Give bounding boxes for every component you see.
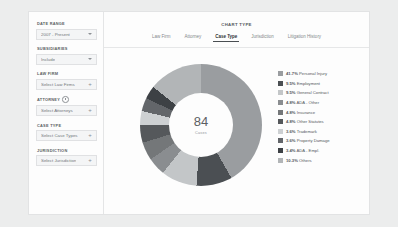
tab-law-firm[interactable]: Law Firm [152,34,171,43]
filter-multiselect[interactable]: Select Law Firms+ [36,79,97,90]
legend-label: 4.8% Other Statutes [286,119,324,124]
legend-label: 4.8% Insurance [286,110,315,115]
legend-item[interactable]: 4.8% Other Statutes [278,117,388,127]
dashboard-card: DATE RANGE2007 - PresentSUBSIDIARIESIncl… [28,11,370,215]
legend-percent: 4.8% [286,100,296,105]
legend-label: 9.5% Employment [286,81,320,86]
legend-name: Employment [297,81,320,86]
chevron-down-icon[interactable] [88,58,92,60]
legend-item[interactable]: 9.5% Employment [278,79,388,89]
legend-name: Personal Injury [299,71,327,76]
legend-item[interactable]: 3.4% ADA - Empl. [278,146,388,156]
filter-label: LAW FIRM [37,71,97,76]
donut-center: 84 Cases [169,93,233,157]
legend-percent: 9.5% [286,81,296,86]
legend-swatch [278,81,283,86]
filter-label: ATTORNEY [37,96,97,103]
legend-label: 9.5% General Contract [286,90,329,95]
legend-swatch [278,138,283,143]
chevron-down-icon[interactable] [88,33,92,35]
legend-percent: 10.3% [286,158,298,163]
filter-label: DATE RANGE [37,21,97,26]
chart-legend: 41.7% Personal Injury9.5% Employment9.5%… [278,69,388,165]
filter-multiselect[interactable]: Select Case Types+ [36,130,97,141]
legend-name: General Contract [297,90,329,95]
tab-jurisdiction[interactable]: Jurisdiction [251,34,274,43]
plus-icon[interactable]: + [88,108,93,113]
legend-swatch [278,148,283,153]
info-icon[interactable] [62,96,69,103]
filter-label-text: ATTORNEY [37,97,60,102]
filter-select[interactable]: 2007 - Present [36,29,97,40]
filter-multiselect[interactable]: Select Jurisdiction+ [36,155,97,166]
filter-group-subsidiaries: SUBSIDIARIESInclude [36,46,97,65]
filter-select[interactable]: Include [36,54,97,65]
legend-name: ADA - Empl. [296,148,319,153]
legend-swatch [278,110,283,115]
legend-label: 3.4% ADA - Empl. [286,148,319,153]
filter-value: Include [41,57,55,62]
legend-percent: 41.7% [286,71,298,76]
filter-group-jurisdiction: JURISDICTIONSelect Jurisdiction+ [36,148,97,167]
legend-name: Insurance [297,110,315,115]
legend-label: 3.6% Trademark [286,129,317,134]
legend-name: Property Damage [297,138,330,143]
filter-value: Select Attorneys [41,108,73,113]
filter-group-law-firm: LAW FIRMSelect Law Firms+ [36,71,97,90]
filter-label-text: LAW FIRM [37,71,58,76]
filter-label-text: DATE RANGE [37,21,65,26]
tab-attorney[interactable]: Attorney [184,34,201,43]
plus-icon[interactable]: + [88,158,93,163]
legend-percent: 3.6% [286,138,296,143]
filter-value: 2007 - Present [41,32,70,37]
legend-swatch [278,100,283,105]
filter-label: CASE TYPE [37,123,97,128]
filter-label: SUBSIDIARIES [37,46,97,51]
legend-swatch [278,119,283,124]
legend-item[interactable]: 9.5% General Contract [278,88,388,98]
legend-label: 3.6% Property Damage [286,138,330,143]
legend-name: Others [299,158,312,163]
tab-litigation-history[interactable]: Litigation History [288,34,321,43]
legend-label: 10.3% Others [286,158,312,163]
donut-center-value: 84 [194,115,208,128]
legend-label: 4.8% ADA - Other [286,100,319,105]
tab-case-type[interactable]: Case Type [215,34,237,43]
legend-swatch [278,129,283,134]
filter-group-case-type: CASE TYPESelect Case Types+ [36,123,97,142]
legend-item[interactable]: 41.7% Personal Injury [278,69,388,79]
filter-label: JURISDICTION [37,148,97,153]
filter-label-text: SUBSIDIARIES [37,46,68,51]
filters-sidebar: DATE RANGE2007 - PresentSUBSIDIARIESIncl… [29,12,104,214]
filter-label-text: JURISDICTION [37,148,67,153]
legend-swatch [278,71,283,76]
plus-icon[interactable]: + [88,82,93,87]
filter-value: Select Case Types [41,133,78,138]
chart-type-tabs: Law FirmAttorneyCase TypeJurisdictionLit… [104,34,369,48]
legend-item[interactable]: 3.6% Property Damage [278,136,388,146]
filter-group-date-range: DATE RANGE2007 - Present [36,21,97,40]
filter-multiselect[interactable]: Select Attorneys+ [36,105,97,116]
legend-name: ADA - Other [296,100,319,105]
legend-name: Other Statutes [297,119,324,124]
legend-item[interactable]: 4.8% ADA - Other [278,98,388,108]
legend-percent: 4.8% [286,110,296,115]
app-root: DATE RANGE2007 - PresentSUBSIDIARIESIncl… [0,0,398,227]
legend-name: Trademark [297,129,317,134]
donut-chart: 84 Cases [140,64,262,186]
legend-label: 41.7% Personal Injury [286,71,327,76]
legend-percent: 4.8% [286,119,296,124]
plus-icon[interactable]: + [88,133,93,138]
legend-item[interactable]: 10.3% Others [278,155,388,165]
legend-swatch [278,158,283,163]
legend-percent: 9.5% [286,90,296,95]
legend-item[interactable]: 4.8% Insurance [278,107,388,117]
filter-value: Select Law Firms [41,82,75,87]
filter-value: Select Jurisdiction [41,158,76,163]
filter-group-attorney: ATTORNEYSelect Attorneys+ [36,96,97,116]
chart-type-title: CHART TYPE [104,22,369,27]
legend-swatch [278,90,283,95]
legend-item[interactable]: 3.6% Trademark [278,127,388,137]
legend-percent: 3.4% [286,148,296,153]
donut-center-caption: Cases [195,131,207,135]
